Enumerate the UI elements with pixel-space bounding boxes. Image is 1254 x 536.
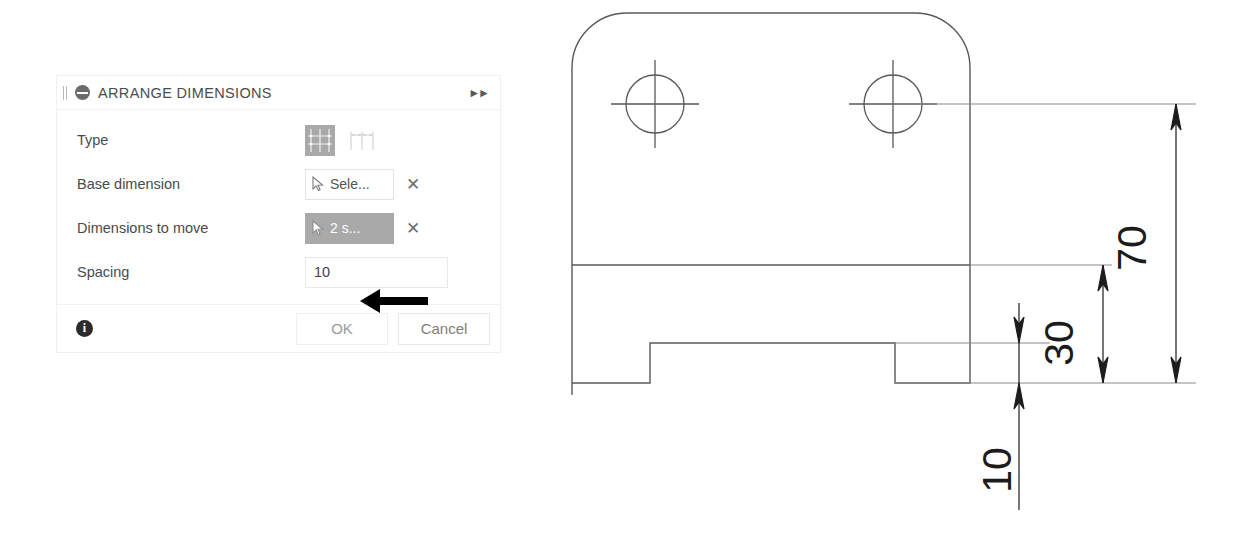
dimensions-to-move-select-button[interactable]: 2 s...: [305, 213, 394, 244]
close-x-icon[interactable]: ✕: [406, 220, 420, 237]
row-base-dimension: Base dimension Sele... ✕: [57, 162, 500, 206]
baseline-dimension-icon[interactable]: [305, 125, 335, 156]
ok-button[interactable]: OK: [296, 313, 388, 345]
cancel-button[interactable]: Cancel: [398, 313, 490, 345]
row-dimensions-to-move: Dimensions to move 2 s... ✕: [57, 206, 500, 250]
row-label-dimensions-to-move: Dimensions to move: [77, 220, 305, 236]
info-circle-icon[interactable]: [76, 320, 93, 337]
hole-left: [611, 60, 699, 148]
cursor-arrow-icon: [312, 220, 325, 236]
dialog-title: ARRANGE DIMENSIONS: [98, 85, 272, 101]
minus-circle-icon[interactable]: [75, 85, 90, 100]
dimension-label-30: 30: [1036, 320, 1082, 366]
type-toggle-group: [305, 125, 377, 156]
base-dimension-select-button[interactable]: Sele...: [305, 169, 394, 200]
dimension-label-10: 10: [974, 447, 1020, 493]
row-type: Type: [57, 118, 500, 162]
dimension-70: [1171, 104, 1181, 383]
part-outline: [572, 13, 970, 395]
dialog-title-bar[interactable]: ARRANGE DIMENSIONS ►►: [57, 76, 500, 110]
dimension-30: [1098, 265, 1108, 383]
double-chevron-right-icon[interactable]: ►►: [466, 83, 490, 103]
dimension-label-70: 70: [1109, 225, 1155, 271]
row-label-spacing: Spacing: [77, 264, 305, 280]
base-dimension-value: Sele...: [330, 176, 370, 192]
close-x-icon[interactable]: ✕: [406, 176, 420, 193]
dialog-footer: OK Cancel: [57, 305, 500, 352]
arrange-dimensions-dialog: ARRANGE DIMENSIONS ►► Type: [57, 76, 500, 352]
row-label-type: Type: [77, 132, 305, 148]
drag-handle-icon[interactable]: [63, 86, 70, 100]
chain-dimension-icon[interactable]: [347, 125, 377, 156]
engineering-drawing: 70 30 10: [520, 0, 1254, 536]
row-label-base-dimension: Base dimension: [77, 176, 305, 192]
row-spacing: Spacing 10: [57, 250, 500, 294]
dialog-body: Type: [57, 110, 500, 305]
spacing-value: 10: [314, 264, 330, 280]
dimensions-to-move-value: 2 s...: [330, 220, 360, 236]
spacing-input[interactable]: 10: [305, 257, 448, 288]
cursor-arrow-icon: [312, 176, 325, 192]
